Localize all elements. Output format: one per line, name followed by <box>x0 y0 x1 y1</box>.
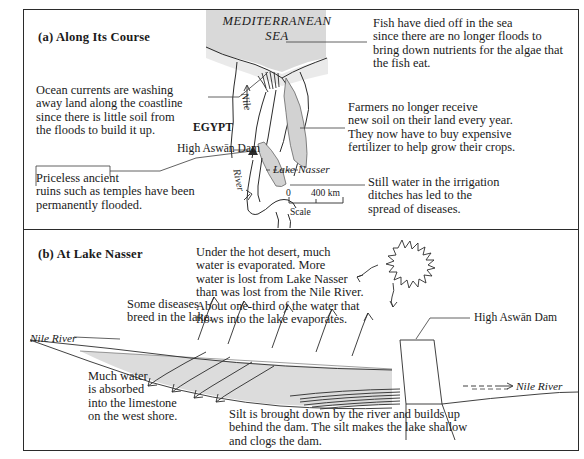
callout-fish-died-off: Fish have died off in the sea since ther… <box>373 17 583 71</box>
section-b-heading: (b) At Lake Nasser <box>38 247 143 262</box>
callout-irrigation-diseases: Still water in the irrigation ditches ha… <box>368 176 548 216</box>
callout-water-absorbed: Much water is absorbed into the limeston… <box>88 370 228 424</box>
cross-section-river-left-label: Nile River <box>30 332 77 344</box>
callout-diseases-breed: Some diseases breed in the lake. <box>127 298 257 325</box>
map-scale-zero: 0 <box>286 187 291 198</box>
map-scale-caption: Scale <box>290 206 311 217</box>
map-label-mediterranean-sea: MEDITERRANEAN SEA <box>222 14 332 44</box>
callout-farmers-fertilizer: Farmers no longer receive new soil on th… <box>348 101 573 155</box>
cross-section-river-right-label: Nile River <box>516 380 563 392</box>
callout-ancient-ruins: Priceless ancient ruins such as temples … <box>36 172 226 212</box>
map-label-high-aswan-dam: High Aswān Dam <box>177 142 260 155</box>
section-a-heading: (a) Along Its Course <box>38 30 150 45</box>
callout-ocean-currents: Ocean currents are washing away land alo… <box>36 84 221 138</box>
figure-root: (a) Along Its Course (b) At Lake Nasser … <box>0 0 584 459</box>
map-scale-distance: 400 km <box>311 187 340 198</box>
callout-silt-buildup: Silt is brought down by the river and bu… <box>229 408 549 448</box>
map-label-lake-nasser: Lake Nasser <box>273 163 330 175</box>
section-divider <box>24 229 578 230</box>
cross-section-dam-label: High Aswān Dam <box>474 311 557 324</box>
